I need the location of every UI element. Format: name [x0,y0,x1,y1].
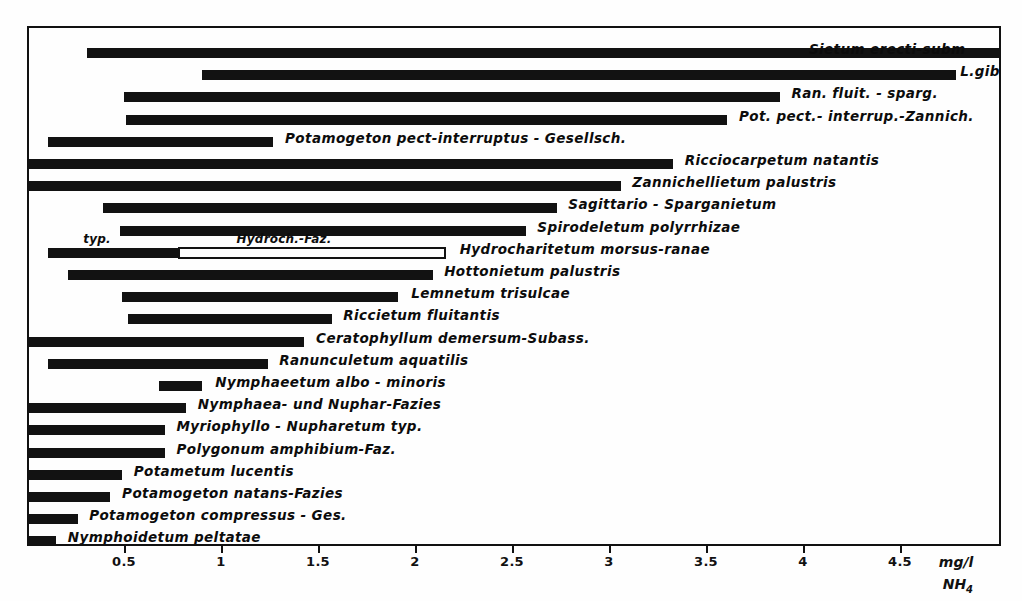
bar-label: Hydrocharitetum morsus-ranae [460,241,710,257]
axis-tick [900,546,902,553]
bar-label: Hottonietum palustris [444,263,620,279]
axis-tick-label: 2 [410,554,419,569]
bar-row: Pot. pect.- interrup.-Zannich. [29,109,999,131]
axis-tick [415,546,417,553]
bar-row: Ranunculetum aquatilis [29,353,999,375]
bar-row: Polygonum amphibium-Faz. [29,442,999,464]
bar-label: Pot. pect.- interrup.-Zannich. [739,108,974,124]
bar-label: Zannichellietum palustris [632,174,836,190]
bar-label: Spirodeletum polyrrhizae [537,219,740,235]
axis-tick [221,546,223,553]
bar [124,92,780,102]
bar [48,359,267,369]
bar [159,381,202,391]
axis-tick-label: 1 [216,554,225,569]
bar-row: Nymphoidetum peltatae [29,530,999,546]
axis-tick-label: 1.5 [306,554,330,569]
bar-label: Potamogeton natans-Fazies [122,485,343,501]
bar-label: Potametum lucentis [134,463,294,479]
bar [103,203,557,213]
bar-row: Ricciocarpetum natantis [29,153,999,175]
bar-label: Lemnetum trisulcae [411,285,570,301]
bar [29,159,673,169]
bar-row: Zannichellietum palustris [29,175,999,197]
bar-label: Polygonum amphibium-Faz. [176,441,396,457]
chart-figure: Sietum erecti-submL.gibbRan. fluit. - sp… [0,0,1022,601]
bar-row: Potamogeton natans-Fazies [29,486,999,508]
bar-row: Potametum lucentis [29,464,999,486]
bar [29,448,165,458]
bar-label: Nymphoidetum peltatae [68,529,261,545]
bar-row: Hottonietum palustris [29,264,999,286]
axis-tick [512,546,514,553]
bar-row: Riccietum fluitantis [29,308,999,330]
bar-label: Myriophyllo - Nupharetum typ. [176,418,422,434]
bar-segment-label: Hydroch.-Faz. [237,232,332,246]
bar-label: Riccietum fluitantis [343,307,500,323]
axis-tick [609,546,611,553]
bar-label: L.gibb [960,63,1001,79]
bar-segment-filled [48,248,178,258]
bar [126,115,727,125]
bar [29,470,122,480]
bar-row: Nymphaeetum albo - minoris [29,375,999,397]
bar [29,425,165,435]
bar-segment-label: typ. [83,232,111,246]
bar [128,314,332,324]
bar-label: Ran. fluit. - sparg. [791,85,938,101]
bar [29,337,304,347]
axis-tick [803,546,805,553]
bar-row: Sietum erecti-subm [29,42,999,64]
bar-row: Potamogeton pect-interruptus - Gesellsch… [29,131,999,153]
x-axis: 0.511.522.533.544.5 mg/l NH4 [0,546,1022,601]
axis-tick [124,546,126,553]
bar [68,270,433,280]
bar-row: Lemnetum trisulcae [29,286,999,308]
bar [202,70,957,80]
axis-tick [706,546,708,553]
bar-label: Ranunculetum aquatilis [279,352,468,368]
bar-label: Ceratophyllum demersum-Subass. [316,330,590,346]
bar-row: L.gibb [29,64,999,86]
axis-tick-label: 4 [798,554,807,569]
bar-label: Ricciocarpetum natantis [685,152,880,168]
plot-area: Sietum erecti-submL.gibbRan. fluit. - sp… [27,26,1001,546]
bar [48,137,273,147]
bar-segment-hollow [178,247,446,259]
axis-tick-label: 3.5 [694,554,718,569]
axis-tick-label: 2.5 [500,554,524,569]
bar-row: Ceratophyllum demersum-Subass. [29,331,999,353]
axis-tick [318,546,320,553]
bar-row: typ.Hydroch.-Faz.Hydrocharitetum morsus-… [29,242,999,264]
bar-row: Myriophyllo - Nupharetum typ. [29,419,999,441]
bar [29,492,110,502]
axis-unit-sublabel: NH4 [943,576,973,595]
axis-tick-label: 0.5 [112,554,136,569]
bar-label: Nymphaea- und Nuphar-Fazies [198,396,442,412]
bar-label: Potamogeton compressus - Ges. [89,507,346,523]
bar-row: Potamogeton compressus - Ges. [29,508,999,530]
bar-label: Sagittario - Sparganietum [568,196,776,212]
bar-label: Sietum erecti-subm [809,41,966,57]
bar [29,514,78,524]
bar [29,181,621,191]
bar-row: Spirodeletum polyrrhizae [29,220,999,242]
bar-label: Potamogeton pect-interruptus - Gesellsch… [285,130,626,146]
bar-label: Nymphaeetum albo - minoris [215,374,446,390]
bar-row: Nymphaea- und Nuphar-Fazies [29,397,999,419]
bar [29,403,186,413]
axis-unit-label: mg/l [939,554,974,570]
bar-row: Sagittario - Sparganietum [29,197,999,219]
bar [122,292,397,302]
bar [29,536,56,546]
axis-tick-label: 3 [604,554,613,569]
bar-row: Ran. fluit. - sparg. [29,86,999,108]
axis-tick-label: 4.5 [888,554,912,569]
